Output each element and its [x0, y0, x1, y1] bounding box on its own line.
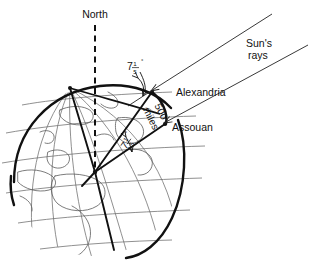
- label-assouan: Assouan: [172, 121, 213, 133]
- label-sun-rays-line2: rays: [248, 49, 268, 61]
- label-angle-top-denominator: 5: [133, 68, 137, 75]
- latitude-grid: [2, 92, 205, 249]
- label-angle-top-numerator: 1: [133, 60, 137, 67]
- label-alexandria: Alexandria: [176, 86, 226, 98]
- label-angle-top-degree: °: [141, 58, 144, 64]
- sun-ray-lower: [164, 45, 308, 123]
- label-sun-rays-line1: Sun's: [246, 37, 272, 49]
- label-angle-top: 7 1 5 °: [127, 58, 144, 75]
- label-north: North: [82, 8, 108, 20]
- label-arc-distance: 500 miles: [141, 102, 170, 132]
- eratosthenes-diagram: North Sun's rays Alexandria Assouan 500 …: [0, 0, 312, 265]
- angle-arc-top: [138, 72, 145, 96]
- label-angle-center-degree: °: [124, 130, 131, 136]
- label-angle-top-whole: 7: [127, 60, 133, 72]
- diagram-canvas: North Sun's rays Alexandria Assouan 500 …: [0, 0, 312, 265]
